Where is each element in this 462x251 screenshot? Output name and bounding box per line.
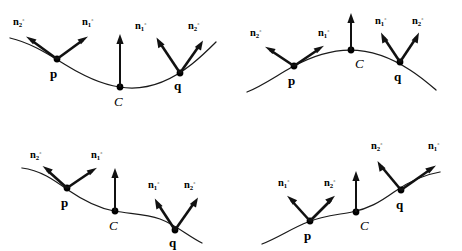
vector-n1-q-top-right xyxy=(381,33,400,63)
vector-n2-p-top-left xyxy=(26,37,57,60)
vector-normal-c-bottom-right xyxy=(352,171,359,212)
label-point-p-bottom-right: p xyxy=(304,229,311,242)
vector-n1-q-bottom-right xyxy=(401,166,436,191)
figure-canvas xyxy=(0,0,462,251)
vector-n2-q-top-right xyxy=(400,33,419,63)
label-n1-q-bottom-right: n1◦ xyxy=(428,141,439,153)
label-n2-q-top-left: n2◦ xyxy=(188,21,199,33)
vector-n2-p-top-right xyxy=(265,47,294,66)
vector-n2-q-top-left xyxy=(180,41,203,74)
vector-normal-c-bottom-left xyxy=(111,168,118,211)
panel-top-right-graphics xyxy=(247,13,436,92)
label-n2-p-top-left: n2◦ xyxy=(13,17,24,29)
vector-n2-p-bottom-left xyxy=(43,166,68,188)
label-curve-c-top-right: C xyxy=(355,57,364,70)
vector-n1-p-bottom-left xyxy=(67,168,97,188)
vector-n2-q-bottom-right xyxy=(378,161,402,190)
vector-n1-p-top-right xyxy=(294,46,324,66)
vector-n2-q-bottom-left xyxy=(175,198,198,231)
label-n1-p-top-left: n1◦ xyxy=(82,17,93,29)
label-curve-c-bottom-right: C xyxy=(360,219,369,232)
label-curve-c-top-left: C xyxy=(114,95,123,108)
label-n2-p-bottom-left: n2◦ xyxy=(30,150,41,162)
label-n2-q-top-right: n2◦ xyxy=(412,16,423,28)
label-point-q-bottom-left: q xyxy=(169,236,176,249)
vector-n1-q-top-left xyxy=(157,38,181,74)
curve-path-top-left xyxy=(10,38,216,88)
curve-path-top-right xyxy=(247,50,436,92)
label-n1-q-bottom-left: n1◦ xyxy=(148,180,159,192)
label-n1-q-top-right: n1◦ xyxy=(375,16,386,28)
label-n2-q-bottom-right: n2◦ xyxy=(371,141,382,153)
panel-top-left-graphics xyxy=(10,34,216,90)
vector-normal-c-top-left xyxy=(116,34,123,87)
label-point-p-top-right: p xyxy=(288,74,295,87)
label-n2-p-bottom-right: n2◦ xyxy=(324,178,335,190)
label-point-q-top-right: q xyxy=(394,70,401,83)
label-n2-q-bottom-left: n2◦ xyxy=(184,180,195,192)
label-n1-p-bottom-right: n1◦ xyxy=(278,178,289,190)
vector-n1-p-bottom-right xyxy=(287,196,310,221)
vector-n1-q-bottom-left xyxy=(155,199,175,231)
label-point-p-bottom-left: p xyxy=(61,196,68,209)
figure-root: n2◦ n1◦ p C n1◦ n2◦ q n2◦ n1◦ p C n1◦ n2… xyxy=(0,0,462,251)
label-n1-p-bottom-left: n1◦ xyxy=(91,150,102,162)
label-curve-c-bottom-left: C xyxy=(109,219,118,232)
vector-n1-p-top-left xyxy=(57,37,88,60)
label-point-p-top-left: p xyxy=(50,67,57,80)
label-point-q-top-left: q xyxy=(174,79,181,92)
vector-normal-c-top-right xyxy=(347,13,354,50)
label-point-q-bottom-right: q xyxy=(396,198,403,211)
label-n2-p-top-right: n2◦ xyxy=(250,28,261,40)
label-n1-p-top-right: n1◦ xyxy=(318,28,329,40)
panel-bottom-right-graphics xyxy=(262,161,440,244)
label-n1-q-top-left: n1◦ xyxy=(135,21,146,33)
